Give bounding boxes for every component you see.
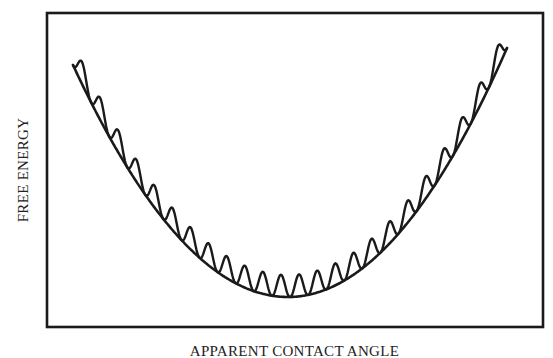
- smooth-energy-curve: [73, 48, 507, 297]
- wavy-energy-curve: [73, 45, 507, 298]
- chart-plot-area: [0, 0, 553, 358]
- x-axis-label: APPARENT CONTACT ANGLE: [0, 343, 553, 358]
- y-axis-label: FREE ENERGY: [15, 118, 32, 223]
